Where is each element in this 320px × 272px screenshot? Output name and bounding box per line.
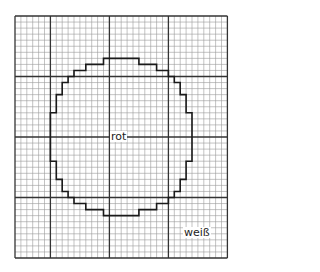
label-weiss: weiß [183, 227, 211, 238]
label-rot: rot [110, 131, 127, 142]
